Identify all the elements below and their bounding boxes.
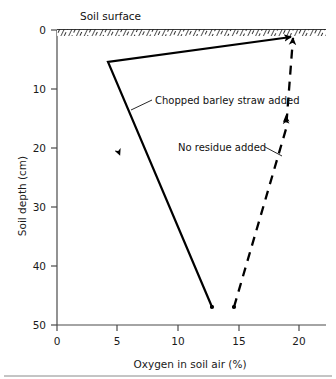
y-tick-50: 50: [33, 319, 46, 331]
x-tick-10: 10: [171, 335, 184, 347]
y-tick-0: 0: [39, 24, 46, 36]
soil-surface-label: Soil surface: [80, 10, 141, 22]
x-axis-ticks: [57, 325, 299, 331]
annotation-no-residue-label: No residue added: [178, 142, 266, 153]
x-axis-title: Oxygen in soil air (%): [134, 358, 247, 370]
y-axis-ticks: [51, 30, 57, 325]
x-tick-20: 20: [292, 335, 305, 347]
axis-lines: [57, 30, 326, 325]
soil-oxygen-depth-chart: 0 10 20 30 40 50 0 5 10 15 20 Oxygen in …: [0, 0, 336, 379]
y-tick-10: 10: [33, 83, 46, 95]
x-tick-15: 15: [232, 335, 245, 347]
y-tick-20: 20: [33, 142, 46, 154]
x-tick-5: 5: [114, 335, 121, 347]
x-tick-0: 0: [54, 335, 61, 347]
annotation-barley-straw: Chopped barley straw added: [131, 95, 299, 110]
figure-container: 0 10 20 30 40 50 0 5 10 15 20 Oxygen in …: [0, 0, 336, 379]
annotation-no-residue: No residue added: [178, 142, 282, 156]
y-tick-40: 40: [33, 260, 46, 272]
y-axis-tick-labels: 0 10 20 30 40 50: [33, 24, 46, 331]
series-no-residue: [234, 38, 293, 307]
annotation-barley-straw-label: Chopped barley straw added: [155, 95, 299, 106]
y-axis-title: Soil depth (cm): [16, 156, 28, 236]
soil-surface-band: [57, 29, 326, 36]
series-barley-straw: [108, 37, 291, 307]
x-axis-tick-labels: 0 5 10 15 20: [54, 335, 306, 347]
y-tick-30: 30: [33, 201, 46, 213]
